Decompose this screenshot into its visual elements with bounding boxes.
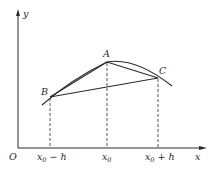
point-label-A: A bbox=[102, 48, 110, 59]
diagram-svg: A B C y x O x0 − h x0 x0 + h bbox=[0, 0, 215, 170]
point-label-C: C bbox=[159, 65, 167, 76]
tick-label-mid: x0 bbox=[102, 151, 112, 164]
point-label-B: B bbox=[40, 86, 48, 97]
x-axis-label: x bbox=[195, 151, 201, 162]
diagram-canvas: A B C y x O x0 − h x0 x0 + h bbox=[0, 0, 215, 170]
origin-label: O bbox=[9, 151, 17, 162]
y-axis-label: y bbox=[22, 8, 29, 19]
tick-label-left: x0 − h bbox=[37, 151, 67, 164]
x-axis-arrow-icon bbox=[199, 146, 207, 150]
tick-label-right: x0 + h bbox=[145, 151, 175, 164]
y-axis-arrow-icon bbox=[16, 9, 20, 16]
